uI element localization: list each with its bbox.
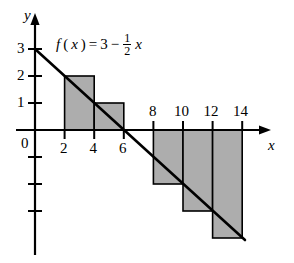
y-axis-arrow-icon (30, 13, 39, 25)
formula-argument: x (71, 37, 78, 52)
formula-paren-close: ) (81, 37, 86, 52)
y-tick-label-2: 2 (17, 68, 25, 83)
formula-function-name: f (56, 37, 60, 52)
x-tick-label-14: 14 (233, 104, 248, 119)
y-tick-label-3: 3 (17, 41, 25, 56)
function-formula: f(x) = 3 − 1 2 x (56, 32, 142, 57)
x-axis-label: x (268, 138, 275, 153)
x-tick-label-8: 8 (149, 104, 157, 119)
formula-variable: x (135, 37, 142, 52)
formula-fraction-numerator: 1 (123, 32, 131, 44)
y-tick-label-1: 1 (17, 95, 25, 110)
formula-fraction-denominator: 2 (123, 44, 131, 57)
bar-rect (153, 130, 183, 184)
x-tick-label-4: 4 (90, 141, 98, 156)
x-tick-label-2: 2 (60, 141, 68, 156)
formula-fraction: 1 2 (123, 32, 131, 57)
bar-rect (213, 130, 243, 238)
x-tick-label-12: 12 (204, 104, 219, 119)
x-axis-arrow-icon (259, 125, 271, 134)
x-tick-label-10: 10 (174, 104, 189, 119)
formula-constant: 3 (100, 37, 108, 52)
bar-rect (65, 76, 95, 130)
math-graph-figure: y x 3 2 1 0 2 4 6 8 10 12 14 f(x) = 3 − … (0, 0, 294, 263)
formula-equals: = (89, 37, 97, 52)
bar-rect (183, 130, 213, 211)
x-tick-label-6: 6 (119, 141, 127, 156)
graph-canvas (0, 0, 294, 263)
origin-label: 0 (21, 136, 29, 151)
y-axis-label: y (24, 8, 31, 23)
formula-minus: − (111, 37, 119, 52)
formula-paren-open: ( (63, 37, 68, 52)
